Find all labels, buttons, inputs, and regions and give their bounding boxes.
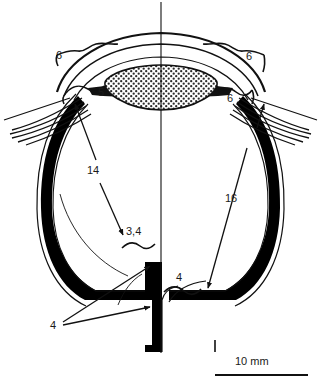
label-four-right: 4 <box>176 272 182 283</box>
connector-three-four <box>122 243 155 249</box>
diagram-canvas <box>0 0 321 384</box>
eye-cross-section-figure: 6 5 6 6 14 16 3,4 4 4 10 mm <box>0 0 321 384</box>
label-four-bottom-left: 4 <box>50 320 56 331</box>
label-three-four: 3,4 <box>126 226 141 237</box>
arrow-four-lower <box>63 307 150 325</box>
arrow-fourteen-lower <box>100 183 123 235</box>
label-sixteen-right: 16 <box>225 193 237 204</box>
arrow-sixteen <box>208 148 247 288</box>
label-six-upper-left: 6 <box>56 50 62 61</box>
label-six-upper-right: 6 <box>246 51 252 62</box>
label-six-lower-right: 6 <box>227 93 233 104</box>
scale-bar-label: 10 mm <box>235 355 269 367</box>
label-five-left: 5 <box>98 87 104 98</box>
label-fourteen-left: 14 <box>87 165 99 176</box>
